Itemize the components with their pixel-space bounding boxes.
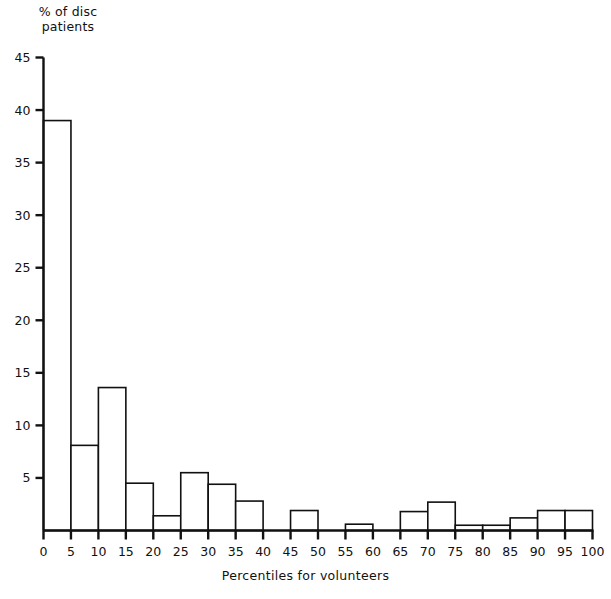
x-axis-tick-label: 85	[502, 544, 518, 559]
x-axis-tick-label: 40	[255, 544, 271, 559]
x-axis-tick-label: 100	[581, 544, 605, 559]
y-axis-tick-label: 10	[15, 418, 31, 433]
histogram-bar	[510, 518, 537, 531]
histogram-bar	[538, 511, 565, 531]
x-axis-tick-label: 70	[420, 544, 436, 559]
y-axis-tick-label: 40	[15, 103, 31, 118]
x-axis-tick-label: 30	[200, 544, 216, 559]
histogram-bars-group	[44, 121, 593, 531]
x-axis-tick-label: 95	[557, 544, 573, 559]
x-axis-tick-group: 0510152025303540455055606570758085909510…	[40, 531, 605, 559]
x-axis-tick-label: 25	[173, 544, 189, 559]
histogram-bar	[565, 511, 592, 531]
y-axis-label: % of disc patients	[8, 4, 128, 34]
y-axis-tick-label: 5	[23, 470, 31, 485]
x-axis-tick-label: 90	[530, 544, 546, 559]
histogram-bar	[153, 516, 180, 531]
y-axis-tick-label: 35	[15, 155, 31, 170]
x-axis-tick-label: 10	[90, 544, 106, 559]
histogram-bar	[236, 501, 263, 530]
x-axis-tick-label: 45	[283, 544, 299, 559]
y-axis-tick-label: 15	[15, 365, 31, 380]
x-axis-tick-label: 60	[365, 544, 381, 559]
histogram-bar	[126, 483, 153, 530]
x-axis-tick-label: 75	[447, 544, 463, 559]
y-axis-tick-label: 30	[15, 208, 31, 223]
x-axis-tick-label: 55	[337, 544, 353, 559]
histogram-chart: % of disc patients 51015202530354045 051…	[0, 0, 611, 599]
y-axis-tick-label: 45	[15, 50, 31, 65]
x-axis-label: Percentiles for volunteers	[0, 568, 611, 583]
chart-plot-area: 51015202530354045 0510152025303540455055…	[0, 0, 611, 599]
histogram-bar	[71, 445, 98, 530]
x-axis-tick-label: 50	[310, 544, 326, 559]
histogram-bar	[400, 512, 427, 531]
histogram-bar	[44, 121, 71, 531]
histogram-bar	[98, 388, 125, 531]
histogram-bar	[291, 511, 318, 531]
y-axis-tick-label: 25	[15, 260, 31, 275]
y-axis-tick-group: 51015202530354045	[15, 50, 44, 485]
x-axis-tick-label: 20	[145, 544, 161, 559]
x-axis-tick-label: 0	[40, 544, 48, 559]
x-axis-tick-label: 80	[475, 544, 491, 559]
x-axis-tick-label: 15	[118, 544, 134, 559]
histogram-bar	[428, 502, 455, 530]
x-axis-tick-label: 65	[392, 544, 408, 559]
histogram-bar	[181, 473, 208, 531]
histogram-bar	[208, 484, 235, 530]
y-axis-tick-label: 20	[15, 313, 31, 328]
x-axis-tick-label: 35	[228, 544, 244, 559]
x-axis-tick-label: 5	[67, 544, 75, 559]
